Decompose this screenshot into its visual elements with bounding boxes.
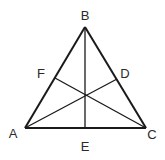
label-b: B: [81, 8, 90, 23]
triangle-diagram: B A C E F D: [0, 0, 165, 160]
label-c: C: [147, 127, 156, 142]
label-f: F: [37, 66, 45, 81]
label-e: E: [81, 139, 90, 154]
cevian-cf: [55, 78, 146, 128]
side-ab: [25, 27, 85, 128]
triangle-svg: B A C E F D: [0, 0, 165, 160]
side-bc: [85, 27, 146, 128]
label-d: D: [120, 66, 129, 81]
label-a: A: [9, 126, 18, 141]
